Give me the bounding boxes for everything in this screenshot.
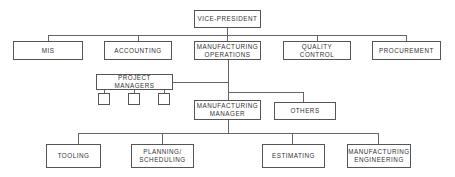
connector-others bbox=[303, 92, 304, 102]
node-procurement: PROCUREMENT bbox=[372, 41, 441, 60]
node-project-manager-1 bbox=[98, 93, 110, 105]
connector-tooling bbox=[78, 133, 79, 144]
connector-others-bar bbox=[228, 92, 304, 93]
connector-mfg-eng bbox=[378, 133, 379, 144]
connector-mfgops-down bbox=[228, 60, 229, 100]
node-planning-scheduling: PLANNING/ SCHEDULING bbox=[131, 144, 194, 168]
connector-mfgmgr-down bbox=[228, 120, 229, 133]
node-vice-president: VICE-PRESIDENT bbox=[194, 10, 261, 28]
node-project-managers: PROJECT MANAGERS bbox=[96, 74, 173, 90]
node-manufacturing-engineering: MANUFACTURING ENGINEERING bbox=[347, 144, 411, 168]
node-others: OTHERS bbox=[274, 102, 336, 120]
node-manufacturing-manager: MANUFACTURING MANAGER bbox=[194, 100, 261, 120]
node-project-manager-2 bbox=[128, 93, 140, 105]
node-estimating: ESTIMATING bbox=[262, 144, 325, 168]
node-mis: MIS bbox=[13, 41, 83, 60]
connector-estimating bbox=[292, 133, 293, 144]
connector-level2-bar bbox=[48, 35, 406, 36]
node-project-manager-3 bbox=[158, 93, 170, 105]
connector-level4-bar bbox=[78, 133, 378, 134]
node-manufacturing-operations: MANUFACTURING OPERATIONS bbox=[194, 41, 261, 60]
node-tooling: TOOLING bbox=[46, 144, 101, 168]
node-accounting: ACCOUNTING bbox=[104, 41, 172, 60]
node-quality-control: QUALITY CONTROL bbox=[283, 41, 351, 60]
connector-planning bbox=[162, 133, 163, 144]
connector-project-managers bbox=[173, 82, 228, 83]
